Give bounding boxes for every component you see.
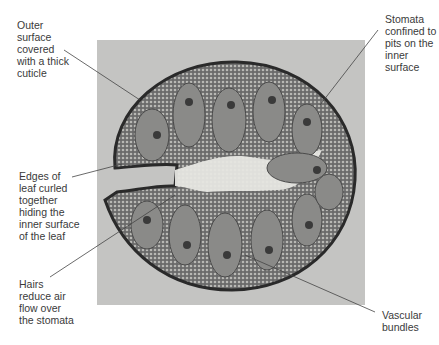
label-thick-cuticle: Outer surface covered with a thick cutic… <box>17 19 69 79</box>
label-vascular-bundles: Vascular bundles <box>382 309 422 333</box>
label-hairs: Hairs reduce air flow over the stomata <box>19 278 74 326</box>
label-curled-edges: Edges of leaf curled together hiding the… <box>19 170 80 242</box>
label-stomata-pits: Stomata confined to pits on the inner su… <box>385 13 436 73</box>
